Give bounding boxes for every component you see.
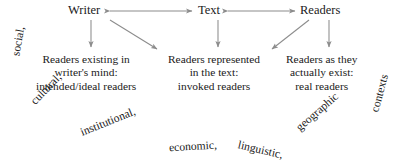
arc-word-geographic: geographic — [294, 91, 340, 134]
arc-word-contexts: contexts — [369, 73, 390, 113]
arc-word-institutional: institutional, — [79, 106, 137, 139]
block-line: invoked readers — [168, 80, 260, 93]
block-line: Readers represented — [168, 53, 260, 66]
block-line: real readers — [286, 80, 357, 93]
node-readers: Readers — [300, 4, 340, 17]
readers-to-in-text-arrow — [272, 20, 309, 49]
writer-to-in-text-arrow — [110, 20, 157, 49]
rhetorical-model-diagram: Writer Text Readers Readers existing in … — [0, 0, 402, 167]
block-line: actually exist: — [286, 66, 357, 79]
arc-word-social: social, — [10, 25, 27, 57]
node-writer: Writer — [68, 4, 100, 17]
arc-word-linguistic: linguistic, — [237, 139, 284, 161]
block-line: Readers as they — [286, 53, 357, 66]
block-invoked-readers: Readers represented in the text: invoked… — [168, 53, 260, 93]
node-text: Text — [198, 4, 220, 17]
block-real-readers: Readers as they actually exist: real rea… — [286, 53, 357, 93]
block-line: in the text: — [168, 66, 260, 79]
block-line: Readers existing in — [36, 53, 136, 66]
arc-word-economic: economic, — [169, 140, 218, 154]
